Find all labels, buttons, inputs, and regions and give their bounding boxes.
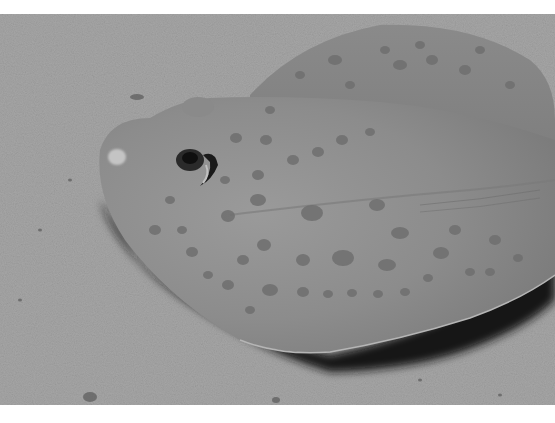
stingray-photo — [0, 14, 555, 405]
